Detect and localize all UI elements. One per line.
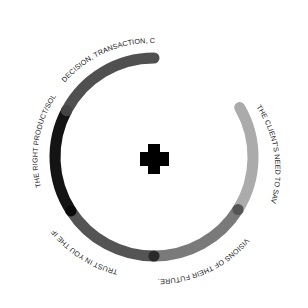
- plus-icon: [140, 144, 169, 174]
- label-product: THE RIGHT PRODUCT/SOLUTION.: [0, 0, 58, 189]
- segment-clients-need-to-save: [238, 108, 253, 210]
- boundary-dot: [232, 204, 243, 215]
- label-decision: DECISION, TRANSACTION, CLOSE.: [0, 0, 155, 84]
- boundary-dot: [148, 250, 159, 261]
- boundary-dot: [61, 105, 72, 116]
- sales-cycle-ring-diagram: DECISION, TRANSACTION, CLOSE. THE RIGHT …: [0, 0, 308, 308]
- segment-trust-in-you: [71, 211, 154, 256]
- segment-right-product: [55, 111, 71, 211]
- boundary-dot: [65, 205, 76, 216]
- segment-visions-of-their-future: [154, 210, 238, 257]
